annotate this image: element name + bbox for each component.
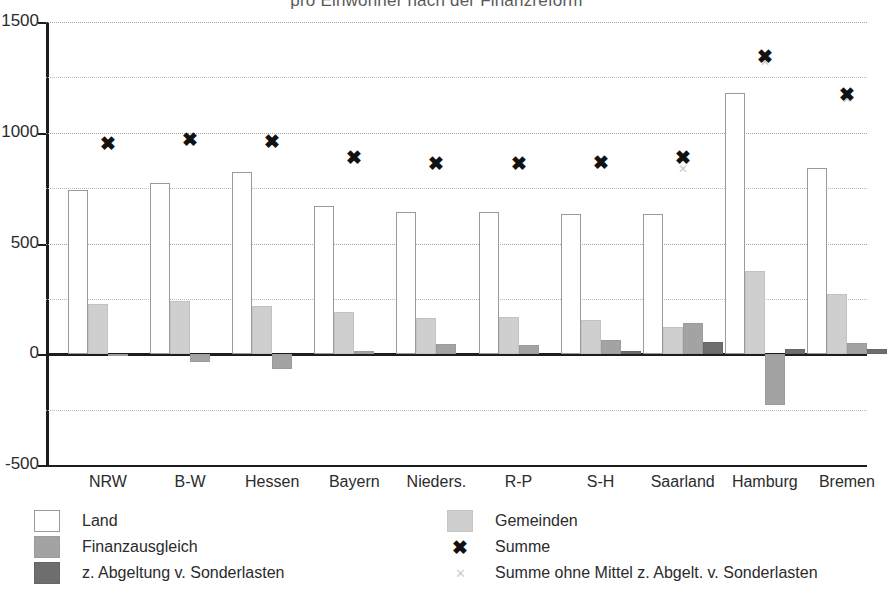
x-axis-label: R-P xyxy=(505,473,533,491)
x-axis-label: Nieders. xyxy=(407,473,467,491)
x-axis-label: Hamburg xyxy=(732,473,798,491)
bar-land xyxy=(479,212,499,354)
y-axis-label: 1000 xyxy=(1,122,39,142)
bar-land xyxy=(396,212,416,354)
bar-land xyxy=(232,172,252,355)
legend-swatch-finanz-icon xyxy=(34,536,60,558)
marker-summe: ✖ xyxy=(100,133,116,152)
legend-swatch-land-icon xyxy=(34,510,60,532)
legend-swatch-gemeinden-icon xyxy=(447,510,473,532)
legend-item: ✖Summe xyxy=(447,534,818,560)
marker-summe: ✖ xyxy=(757,47,773,66)
legend-item: Land xyxy=(34,508,285,534)
bar-finanz xyxy=(519,345,539,354)
legend-item: ✕Summe ohne Mittel z. Abgelt. v. Sonderl… xyxy=(447,560,818,586)
x-axis-label: S-H xyxy=(587,473,615,491)
bar-finanz xyxy=(272,354,292,368)
bar-land xyxy=(807,168,827,354)
legend-item: Gemeinden xyxy=(447,508,818,534)
y-axis-label: -500 xyxy=(5,454,39,474)
bar-land xyxy=(314,206,334,354)
y-axis-tick xyxy=(38,22,46,24)
legend-column-left: LandFinanzausgleichz. Abgeltung v. Sonde… xyxy=(34,508,285,586)
marker-summe: ✖ xyxy=(346,148,362,167)
x-axis-label: Hessen xyxy=(245,473,299,491)
x-axis-label: B-W xyxy=(175,473,206,491)
marker-summe: ✖ xyxy=(593,152,609,171)
x-axis-label: Bremen xyxy=(819,473,875,491)
bar-group: ✕✖ xyxy=(621,22,703,465)
bar-gemeinden xyxy=(334,312,354,354)
bar-group: ✕✖ xyxy=(210,22,292,465)
bar-finanz xyxy=(190,354,210,362)
bar-land xyxy=(150,183,170,355)
legend-label: z. Abgeltung v. Sonderlasten xyxy=(82,564,285,582)
bar-land xyxy=(725,93,745,354)
x-axis-label: Bayern xyxy=(329,473,380,491)
bar-gemeinden xyxy=(416,318,436,355)
marker-summe: ✖ xyxy=(182,130,198,149)
bar-group: ✕✖ xyxy=(539,22,621,465)
legend-label: Summe ohne Mittel z. Abgelt. v. Sonderla… xyxy=(495,564,818,582)
y-axis-tick xyxy=(38,244,46,246)
bar-gemeinden xyxy=(170,301,190,354)
legend-item: Finanzausgleich xyxy=(34,534,285,560)
marker-summe: ✖ xyxy=(511,153,527,172)
y-axis-tick xyxy=(38,354,46,356)
bar-group: ✕✖ xyxy=(46,22,128,465)
bar-finanz xyxy=(847,343,867,354)
bar-finanz xyxy=(354,351,374,354)
bar-group: ✕✖ xyxy=(374,22,456,465)
y-axis-label: 1500 xyxy=(1,11,39,31)
marker-summe: ✖ xyxy=(675,148,691,167)
bar-sonder xyxy=(867,349,887,354)
legend-item: z. Abgeltung v. Sonderlasten xyxy=(34,560,285,586)
bar-land xyxy=(643,214,663,355)
legend-label: Summe xyxy=(495,538,550,556)
bar-gemeinden xyxy=(581,320,601,354)
legend-swatch-marker-light-icon: ✕ xyxy=(447,562,473,584)
y-axis-tick xyxy=(38,133,46,135)
legend-swatch-marker-icon: ✖ xyxy=(447,536,473,558)
bar-finanz xyxy=(601,340,621,354)
bar-finanz xyxy=(683,323,703,354)
marker-summe: ✖ xyxy=(428,153,444,172)
legend-label: Finanzausgleich xyxy=(82,538,198,556)
chart-title: pro Einwohner nach der Finanzreform xyxy=(0,0,873,11)
bar-finanz xyxy=(765,354,785,405)
bar-gemeinden xyxy=(88,304,108,354)
bar-gemeinden xyxy=(827,294,847,354)
bar-group: ✕✖ xyxy=(128,22,210,465)
legend-swatch-sonder-icon xyxy=(34,562,60,584)
bar-group: ✕✖ xyxy=(457,22,539,465)
bar-gemeinden xyxy=(499,317,519,355)
bar-group: ✕✖ xyxy=(785,22,867,465)
legend-label: Land xyxy=(82,512,118,530)
bar-gemeinden xyxy=(663,327,683,355)
y-axis-tick xyxy=(38,465,46,467)
bar-land xyxy=(561,214,581,355)
bar-gemeinden xyxy=(252,306,272,355)
y-axis-label: 500 xyxy=(11,233,39,253)
bar-gemeinden xyxy=(745,271,765,354)
x-axis-line xyxy=(46,465,867,467)
chart-legend: LandFinanzausgleichz. Abgeltung v. Sonde… xyxy=(0,508,873,596)
bar-land xyxy=(68,190,88,354)
y-axis-label: 0 xyxy=(30,343,39,363)
bar-finanz xyxy=(108,354,128,356)
legend-label: Gemeinden xyxy=(495,512,578,530)
bar-group: ✕✖ xyxy=(703,22,785,465)
marker-summe: ✖ xyxy=(839,84,855,103)
marker-summe: ✖ xyxy=(264,131,280,150)
bar-finanz xyxy=(436,344,456,354)
x-axis-label: NRW xyxy=(89,473,127,491)
legend-column-right: Gemeinden✖Summe✕Summe ohne Mittel z. Abg… xyxy=(447,508,818,586)
bar-group: ✕✖ xyxy=(292,22,374,465)
x-axis-label: Saarland xyxy=(651,473,715,491)
plot-area: ✕✖✕✖✕✖✕✖✕✖✕✖✕✖✕✖✕✖✕✖ xyxy=(46,22,867,465)
